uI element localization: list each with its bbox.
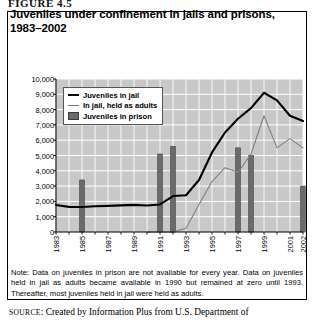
y-tick-label: 6,000: [36, 136, 55, 145]
legend-item-jail: Juveniles in jail: [68, 91, 157, 100]
legend-label-adults: In jail, held as adults: [83, 101, 157, 110]
legend-line-thick-icon: [68, 94, 79, 96]
legend-line-thin-icon: [68, 105, 79, 106]
legend-item-prison: Juveniles in prison: [68, 112, 157, 121]
y-tick-label: 7,000: [36, 120, 55, 129]
chart-note: Note: Data on juveniles in prison are no…: [11, 268, 303, 299]
chart-legend: Juveniles in jail In jail, held as adult…: [63, 87, 163, 125]
x-tick-label: 1983: [52, 236, 61, 252]
legend-label-prison: Juveniles in prison: [83, 112, 152, 121]
y-tick-label: 1,000: [36, 212, 55, 221]
y-tick-label: 9,000: [36, 90, 55, 99]
x-tick-label: 1995: [208, 236, 217, 252]
chart-source: SOURCE: Created by Information Plus from…: [9, 306, 309, 319]
y-tick-label: 4,000: [36, 166, 55, 175]
legend-label-jail: Juveniles in jail: [83, 91, 139, 100]
x-tick-label: 1991: [156, 236, 165, 252]
x-tick-label: 1989: [130, 236, 139, 252]
x-tick-label: 1993: [182, 236, 191, 252]
y-tick-label: 8,000: [36, 105, 55, 114]
x-tick-label: 2001: [286, 236, 295, 252]
x-tick-label: 1997: [234, 236, 243, 252]
x-tick-label: 1985: [78, 236, 87, 252]
y-tick-label: 5,000: [36, 151, 55, 160]
y-tick-label: 2,000: [36, 197, 55, 206]
x-tick-label: 1987: [104, 236, 113, 252]
x-tick-label: 1999: [260, 236, 269, 252]
legend-item-adults: In jail, held as adults: [68, 101, 157, 110]
y-tick-label: 10,000: [31, 75, 54, 84]
y-tick-label: 3,000: [36, 182, 55, 191]
source-prefix: SOURCE: [9, 308, 41, 317]
legend-bar-icon: [68, 112, 79, 120]
x-tick-label: 2002: [299, 236, 308, 252]
source-text: : Created by Information Plus from U.S. …: [41, 307, 249, 317]
